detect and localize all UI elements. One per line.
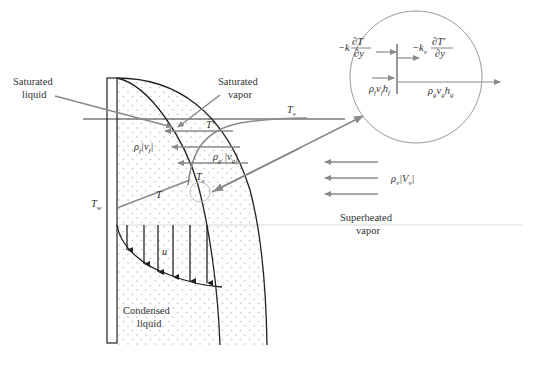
inset-vapor-conduction-prefix: −kv: [412, 42, 428, 56]
symbol-u-velocity: u: [162, 246, 167, 257]
inset-liquid-conduction-prefix: −k: [338, 42, 350, 53]
inset-vapor-conduction-denominator: ∂y: [435, 48, 445, 59]
inset-liquid-conduction-denominator: ∂y: [354, 48, 364, 59]
label-condensed-liquid-line1: Condensed: [123, 305, 170, 316]
symbol-t-wall: Tw: [91, 198, 102, 212]
symbol-rho-v-Vv: ρv|Vv|: [390, 173, 414, 187]
label-superheated-vapor-line1: Superheated: [340, 212, 393, 223]
label-superheated-vapor-line2: vapor: [356, 225, 380, 236]
wall: [107, 78, 117, 343]
symbol-t-prime: T′: [206, 119, 215, 130]
inset-zoom-circle: [350, 11, 482, 143]
symbol-t-vapor: Tv: [287, 104, 297, 118]
condensation-diagram: Saturated liquid Saturated vapor Superhe…: [0, 0, 533, 370]
inset-liquid-conduction-numerator: ∂T: [352, 36, 364, 47]
inset-liquid-enthalpy-flux: ρfvfhf: [368, 83, 391, 97]
inset-vapor-conduction-numerator: ∂T′: [432, 36, 446, 47]
label-saturated-liquid-line1: Saturated: [13, 76, 53, 87]
label-condensed-liquid-line2: liquid: [137, 318, 162, 329]
label-saturated-liquid-line2: liquid: [22, 89, 47, 100]
label-saturated-vapor-line2: vapor: [228, 89, 252, 100]
inset-vapor-enthalpy-flux: ρgvghg: [427, 85, 454, 99]
label-saturated-vapor-line1: Saturated: [218, 76, 258, 87]
